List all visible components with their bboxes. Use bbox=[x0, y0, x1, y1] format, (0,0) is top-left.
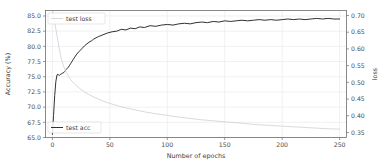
yaxis-title-left: Accuracy (%) bbox=[4, 53, 12, 95]
accuracy-loss-line-chart: 05010015020025065.067.570.072.575.077.58… bbox=[0, 0, 386, 166]
ytick-label-left: 70.0 bbox=[27, 103, 41, 110]
xtick-label: 50 bbox=[106, 141, 114, 148]
ytick-label-right: 0.45 bbox=[351, 95, 365, 102]
plot-frame bbox=[46, 11, 347, 138]
ytick-label-left: 67.5 bbox=[27, 119, 41, 126]
yaxis-title-right: loss bbox=[371, 67, 379, 80]
xtick-label: 200 bbox=[276, 141, 288, 148]
ytick-label-right: 0.65 bbox=[351, 28, 365, 35]
legend-label-test-acc: test acc bbox=[66, 124, 91, 131]
xtick-label: 100 bbox=[161, 141, 173, 148]
ytick-label-left: 82.5 bbox=[27, 27, 41, 34]
legend-label-test-loss: test loss bbox=[66, 15, 92, 22]
xtick-label: 150 bbox=[219, 141, 231, 148]
ytick-label-left: 85.0 bbox=[27, 12, 41, 19]
ytick-label-right: 0.70 bbox=[351, 12, 365, 19]
chart-figure: 05010015020025065.067.570.072.575.077.58… bbox=[0, 0, 386, 166]
ytick-label-left: 75.0 bbox=[27, 73, 41, 80]
ytick-label-left: 77.5 bbox=[27, 58, 41, 65]
ytick-label-right: 0.40 bbox=[351, 112, 365, 119]
ytick-label-right: 0.60 bbox=[351, 45, 365, 52]
ytick-label-left: 72.5 bbox=[27, 88, 41, 95]
xaxis-title: Number of epochs bbox=[167, 152, 226, 160]
xtick-label: 0 bbox=[50, 141, 54, 148]
ytick-label-left: 65.0 bbox=[27, 134, 41, 141]
xtick-label: 250 bbox=[334, 141, 346, 148]
ytick-label-right: 0.50 bbox=[351, 79, 365, 86]
ytick-label-right: 0.35 bbox=[351, 129, 365, 136]
series-line-test-loss bbox=[52, 11, 339, 130]
ytick-label-right: 0.55 bbox=[351, 62, 365, 69]
ytick-label-left: 80.0 bbox=[27, 43, 41, 50]
